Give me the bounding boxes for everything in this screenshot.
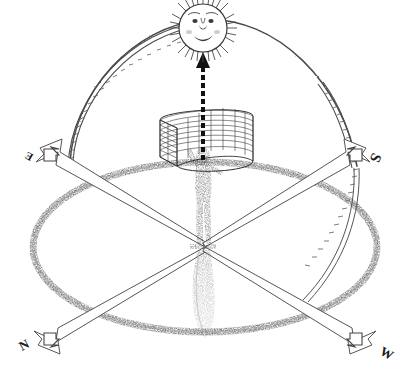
compass-label-north: N — [16, 336, 32, 354]
figure-canvas: E S N W — [0, 0, 404, 365]
compass-label-south: S — [367, 151, 385, 165]
east-arrow — [36, 139, 207, 247]
compass-label-east: E — [23, 150, 35, 164]
sun-with-face — [169, 0, 237, 62]
celestial-sphere-diagram: E S N W — [0, 0, 404, 365]
compass-label-west: W — [378, 343, 397, 362]
dashed-zenith-arrow — [196, 52, 210, 160]
observer-shadow — [193, 250, 215, 338]
north-arrow — [34, 247, 207, 354]
